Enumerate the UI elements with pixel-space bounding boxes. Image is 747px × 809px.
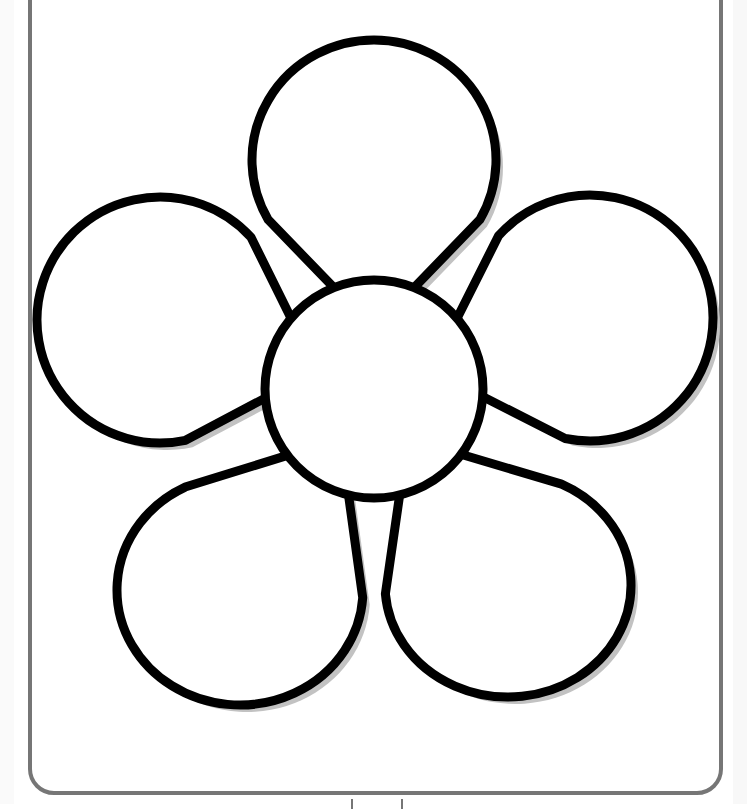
flower-center-circle <box>265 280 483 498</box>
flower-center <box>265 280 483 498</box>
